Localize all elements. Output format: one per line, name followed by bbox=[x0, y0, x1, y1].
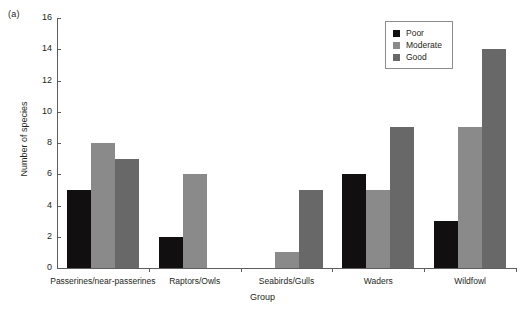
y-axis-tick-mark bbox=[57, 112, 61, 113]
y-axis-tick-label: 16 bbox=[42, 12, 52, 22]
y-axis-tick: 12 bbox=[17, 81, 61, 82]
y-axis-tick-mark bbox=[57, 268, 61, 269]
bar-moderate bbox=[275, 252, 299, 268]
bar-good bbox=[390, 127, 414, 268]
y-axis-tick: 0 bbox=[17, 268, 61, 269]
y-axis-tick-label: 6 bbox=[47, 168, 52, 178]
bar-moderate bbox=[183, 174, 207, 268]
bar-poor bbox=[342, 174, 366, 268]
y-axis-tick-label: 0 bbox=[47, 262, 52, 272]
x-axis-tick-mark bbox=[516, 268, 517, 272]
y-axis-tick-label: 14 bbox=[42, 43, 52, 53]
bar-moderate bbox=[91, 143, 115, 268]
x-axis-line bbox=[57, 268, 516, 269]
legend-swatch-icon bbox=[393, 42, 400, 49]
legend-item-label: Poor bbox=[406, 28, 424, 38]
legend-item-good[interactable]: Good bbox=[393, 51, 442, 63]
x-axis-tick-label: Passerines/near-passerines bbox=[50, 276, 155, 286]
y-axis-tick-label: 12 bbox=[42, 75, 52, 85]
y-axis-tick-label: 2 bbox=[47, 231, 52, 241]
legend-item-label: Moderate bbox=[406, 40, 442, 50]
bar-poor bbox=[159, 237, 183, 268]
figure-panel-a: (a) Number of species Group 024681012141… bbox=[0, 0, 525, 311]
x-axis-tick-mark bbox=[332, 268, 333, 272]
bar-good bbox=[299, 190, 323, 268]
y-axis-tick: 8 bbox=[17, 143, 61, 144]
y-axis-tick-mark bbox=[57, 206, 61, 207]
bar-moderate bbox=[458, 127, 482, 268]
legend-swatch-icon bbox=[393, 54, 400, 61]
x-axis-title: Group bbox=[0, 292, 525, 302]
bar-moderate bbox=[366, 190, 390, 268]
legend-swatch-icon bbox=[393, 30, 400, 37]
y-axis-tick: 10 bbox=[17, 112, 61, 113]
legend: PoorModerateGood bbox=[385, 21, 453, 69]
y-axis-tick: 4 bbox=[17, 206, 61, 207]
bar-poor bbox=[434, 221, 458, 268]
x-axis-tick-label: Seabirds/Gulls bbox=[259, 276, 314, 286]
legend-item-poor[interactable]: Poor bbox=[393, 27, 442, 39]
x-axis-tick-mark bbox=[149, 268, 150, 272]
y-axis-tick-mark bbox=[57, 49, 61, 50]
legend-item-label: Good bbox=[406, 52, 427, 62]
y-axis-tick-label: 4 bbox=[47, 200, 52, 210]
bar-poor bbox=[67, 190, 91, 268]
legend-item-moderate[interactable]: Moderate bbox=[393, 39, 442, 51]
y-axis-tick-mark bbox=[57, 81, 61, 82]
y-axis-tick-label: 10 bbox=[42, 106, 52, 116]
y-axis-tick-mark bbox=[57, 174, 61, 175]
x-axis-tick-label: Wildfowl bbox=[454, 276, 486, 286]
y-axis-tick-mark bbox=[57, 237, 61, 238]
x-axis-tick-label: Raptors/Owls bbox=[169, 276, 220, 286]
y-axis-tick-mark bbox=[57, 18, 61, 19]
y-axis-title: Number of species bbox=[19, 79, 29, 199]
y-axis-tick: 16 bbox=[17, 18, 61, 19]
bar-good bbox=[115, 159, 139, 268]
y-axis-tick-mark bbox=[57, 143, 61, 144]
y-axis-tick: 6 bbox=[17, 174, 61, 175]
x-axis-tick-label: Waders bbox=[364, 276, 393, 286]
bar-good bbox=[482, 49, 506, 268]
x-axis-tick-mark bbox=[424, 268, 425, 272]
y-axis-tick-label: 8 bbox=[47, 137, 52, 147]
x-axis-tick-mark bbox=[241, 268, 242, 272]
y-axis-tick: 2 bbox=[17, 237, 61, 238]
y-axis-tick: 14 bbox=[17, 49, 61, 50]
